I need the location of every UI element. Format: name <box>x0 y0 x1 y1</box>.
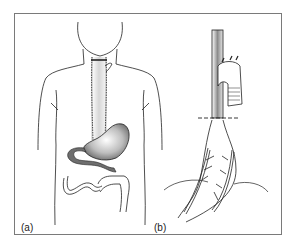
panel-label-b: (b) <box>154 222 166 233</box>
panel-a-esophagus <box>91 57 112 140</box>
panel-b-diaphragm <box>164 180 268 192</box>
panel-label-a: (a) <box>21 222 33 233</box>
panel-a-small-bowel <box>63 176 129 212</box>
panel-b-gastric-tube <box>178 120 236 222</box>
anatomy-diagram <box>0 0 296 248</box>
